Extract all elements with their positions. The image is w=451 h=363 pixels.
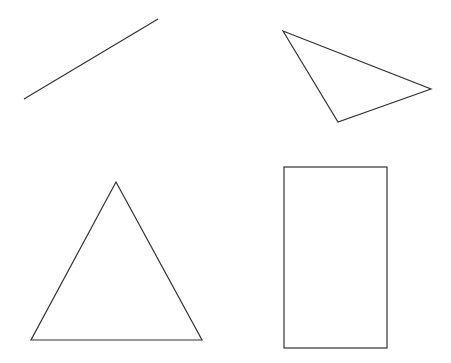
isosceles-triangle [31,182,202,340]
shapes-canvas [0,0,451,363]
scalene-triangle [283,31,431,122]
rectangle [284,167,387,348]
line-segment [24,19,158,99]
